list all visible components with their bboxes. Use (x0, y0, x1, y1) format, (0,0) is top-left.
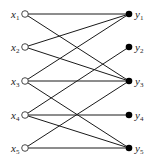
node-y4 (126, 112, 133, 119)
node-x3 (22, 78, 29, 85)
edge-x2-y1 (25, 14, 129, 47)
node-x4 (22, 112, 29, 119)
node-x5 (22, 145, 29, 152)
edges-layer (25, 14, 129, 148)
node-y2 (126, 44, 133, 51)
node-label-x5: x5 (10, 142, 20, 156)
node-y3 (126, 78, 133, 85)
node-x2 (22, 44, 29, 51)
node-label-x4: x4 (10, 109, 20, 123)
node-label-y3: y3 (134, 75, 144, 89)
node-label-x3: x3 (10, 75, 20, 89)
node-label-x2: x2 (10, 41, 20, 55)
node-label-y1: y1 (134, 8, 144, 22)
edge-x2-y3 (25, 47, 129, 81)
node-y1 (126, 11, 133, 18)
node-y5 (126, 145, 133, 152)
node-label-y2: y2 (134, 41, 144, 55)
node-x1 (22, 11, 29, 18)
node-label-x1: x1 (10, 8, 20, 22)
node-label-y5: y5 (134, 142, 144, 156)
edge-x4-y5 (25, 115, 129, 148)
bipartite-graph: x1x2x3x4x5y1y2y3y4y5 (0, 0, 153, 164)
node-label-y4: y4 (134, 109, 144, 123)
